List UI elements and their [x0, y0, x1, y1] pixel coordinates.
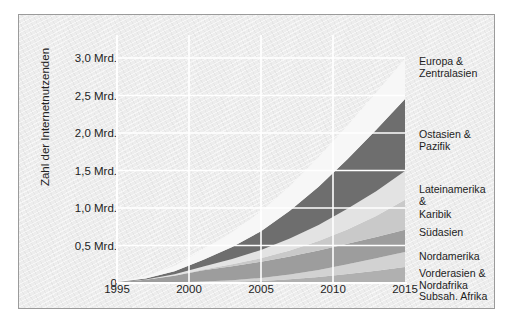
- legend-label-6: Subsah. Afrika: [419, 290, 487, 302]
- x-tick-label-4: 2015: [392, 283, 418, 295]
- legend-label-4: Nordamerika: [419, 250, 480, 262]
- x-tick-label-2: 2005: [248, 283, 274, 295]
- x-tick-label-3: 2010: [320, 283, 346, 295]
- legend-label-3: Südasien: [419, 226, 463, 238]
- legend-label-0: Europa & Zentralasien: [419, 55, 477, 80]
- legend-label-1: Ostasien & Pazifik: [419, 128, 471, 153]
- legend-label-2: Lateinamerika & Karibik: [419, 183, 494, 220]
- chart-figure: Zahl der Internetnutzenden 00,5 Mrd.1,0 …: [18, 14, 495, 309]
- legend-label-5: Vorderasien & Nordafrika: [419, 267, 486, 292]
- x-tick-label-0: 1995: [104, 283, 130, 295]
- x-tick-label-1: 2000: [176, 283, 202, 295]
